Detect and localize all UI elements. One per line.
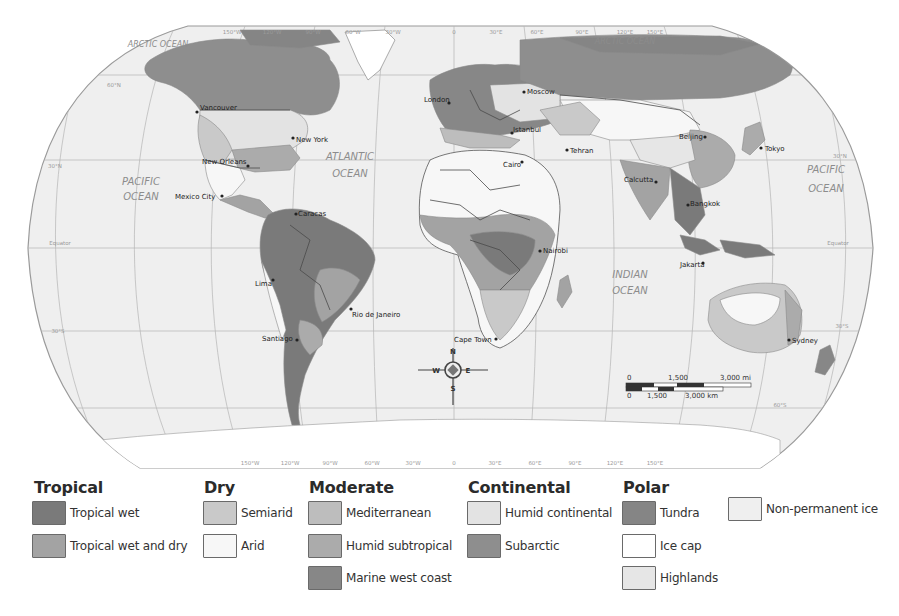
legend-label: Semiarid bbox=[241, 506, 293, 520]
legend-swatch bbox=[622, 566, 656, 590]
legend-label: Mediterranean bbox=[346, 506, 431, 520]
city-marker: Nairobi bbox=[538, 247, 568, 255]
legend-group-title: Polar bbox=[623, 478, 669, 497]
svg-text:1,500: 1,500 bbox=[668, 374, 688, 382]
legend-swatch bbox=[308, 501, 342, 525]
svg-text:150°E: 150°E bbox=[647, 460, 664, 466]
svg-text:Vancouver: Vancouver bbox=[200, 104, 237, 112]
city-marker: Jakarta bbox=[679, 261, 705, 269]
svg-text:Caracas: Caracas bbox=[298, 210, 326, 218]
svg-text:30°S: 30°S bbox=[51, 328, 65, 334]
svg-text:Bangkok: Bangkok bbox=[690, 200, 721, 208]
svg-text:30°S: 30°S bbox=[835, 323, 849, 329]
city-marker: Cape Town bbox=[454, 336, 498, 344]
svg-text:Nairobi: Nairobi bbox=[543, 247, 568, 255]
svg-text:OCEAN: OCEAN bbox=[808, 183, 844, 194]
svg-text:Equator: Equator bbox=[49, 240, 71, 247]
svg-text:Tokyo: Tokyo bbox=[764, 145, 785, 153]
legend-swatch bbox=[203, 534, 237, 558]
svg-text:New Orleans: New Orleans bbox=[202, 158, 247, 166]
legend-label: Tropical wet bbox=[70, 506, 139, 520]
legend-swatch bbox=[308, 566, 342, 590]
legend-item-semiarid: Semiarid bbox=[203, 500, 293, 526]
legend-item-humid-continental: Humid continental bbox=[467, 500, 612, 526]
svg-text:Istanbul: Istanbul bbox=[513, 126, 541, 134]
legend-label: Non-permanent ice bbox=[766, 502, 878, 516]
legend-item-tropical-wet: Tropical wet bbox=[32, 500, 139, 526]
svg-text:OCEAN: OCEAN bbox=[332, 168, 368, 179]
svg-text:0: 0 bbox=[627, 392, 631, 400]
svg-text:ATLANTIC: ATLANTIC bbox=[325, 151, 374, 162]
svg-text:0: 0 bbox=[452, 460, 456, 466]
svg-text:30°N: 30°N bbox=[48, 163, 62, 169]
svg-text:Mexico City: Mexico City bbox=[175, 193, 215, 201]
svg-text:Santiago: Santiago bbox=[262, 335, 293, 343]
legend-group-title: Moderate bbox=[309, 478, 394, 497]
legend-item-ice-cap: Ice cap bbox=[622, 533, 702, 559]
svg-text:60°E: 60°E bbox=[530, 29, 544, 35]
legend-group-title: Continental bbox=[468, 478, 571, 497]
legend-item-non-permanent-ice: Non-permanent ice bbox=[728, 496, 878, 522]
svg-text:Cape Town: Cape Town bbox=[454, 336, 492, 344]
svg-text:W: W bbox=[432, 367, 440, 375]
legend-swatch bbox=[308, 534, 342, 558]
legend-label: Marine west coast bbox=[346, 571, 452, 585]
svg-text:90°E: 90°E bbox=[568, 460, 582, 466]
legend-swatch bbox=[203, 501, 237, 525]
world-climate-map: ARCTIC OCEAN ARCTIC OCEAN PACIFIC OCEAN … bbox=[0, 0, 899, 470]
legend-label: Highlands bbox=[660, 571, 718, 585]
svg-text:30°E: 30°E bbox=[489, 29, 503, 35]
city-marker: Beijing bbox=[679, 133, 707, 141]
svg-text:30°W: 30°W bbox=[405, 460, 421, 466]
svg-text:Jakarta: Jakarta bbox=[679, 261, 705, 269]
legend-swatch bbox=[728, 497, 762, 521]
svg-text:90°W: 90°W bbox=[322, 460, 338, 466]
svg-text:0: 0 bbox=[452, 29, 456, 35]
svg-text:30°N: 30°N bbox=[833, 153, 847, 159]
city-marker: Cairo bbox=[503, 160, 524, 169]
svg-text:30°E: 30°E bbox=[488, 460, 502, 466]
svg-text:London: London bbox=[424, 96, 450, 104]
svg-text:Equator: Equator bbox=[827, 240, 849, 247]
climate-legend: Tropical Tropical wet Tropical wet and d… bbox=[0, 470, 899, 616]
svg-text:1,500: 1,500 bbox=[647, 392, 667, 400]
legend-label: Tropical wet and dry bbox=[70, 539, 187, 553]
legend-swatch bbox=[622, 501, 656, 525]
svg-text:OCEAN: OCEAN bbox=[612, 285, 648, 296]
city-marker: Caracas bbox=[294, 210, 326, 218]
city-marker: Moscow bbox=[522, 88, 555, 96]
legend-label: Humid subtropical bbox=[346, 539, 452, 553]
legend-item-arid: Arid bbox=[203, 533, 264, 559]
svg-text:ARCTIC OCEAN: ARCTIC OCEAN bbox=[127, 40, 188, 49]
svg-text:Sydney: Sydney bbox=[792, 337, 818, 345]
svg-text:Tehran: Tehran bbox=[569, 147, 593, 155]
svg-text:120°E: 120°E bbox=[607, 460, 624, 466]
legend-item-marine-west-coast: Marine west coast bbox=[308, 565, 452, 591]
city-marker: Calcutta bbox=[624, 176, 658, 184]
city-marker: Bangkok bbox=[686, 200, 721, 208]
legend-item-humid-subtropical: Humid subtropical bbox=[308, 533, 452, 559]
svg-text:60°N: 60°N bbox=[107, 82, 121, 88]
legend-group-title: Tropical bbox=[34, 478, 103, 497]
svg-text:120°W: 120°W bbox=[281, 460, 300, 466]
svg-text:150°W: 150°W bbox=[223, 29, 242, 35]
legend-label: Ice cap bbox=[660, 539, 702, 553]
svg-text:Lima: Lima bbox=[255, 280, 272, 288]
svg-text:N: N bbox=[450, 348, 456, 356]
city-marker: New York bbox=[291, 136, 329, 144]
svg-text:150°E: 150°E bbox=[647, 29, 664, 35]
svg-text:90°W: 90°W bbox=[305, 29, 321, 35]
legend-item-mediterranean: Mediterranean bbox=[308, 500, 431, 526]
legend-item-tropical-wet-and-dry: Tropical wet and dry bbox=[32, 533, 187, 559]
svg-text:Beijing: Beijing bbox=[679, 133, 703, 141]
city-marker: Istanbul bbox=[510, 126, 541, 135]
svg-text:30°W: 30°W bbox=[385, 29, 401, 35]
legend-swatch bbox=[467, 501, 501, 525]
legend-item-highlands: Highlands bbox=[622, 565, 718, 591]
svg-text:3,000 km: 3,000 km bbox=[685, 392, 718, 400]
svg-text:PACIFIC: PACIFIC bbox=[807, 164, 845, 175]
svg-text:PACIFIC: PACIFIC bbox=[122, 176, 160, 187]
legend-label: Humid continental bbox=[505, 506, 612, 520]
city-marker: London bbox=[424, 96, 451, 105]
city-marker: Lima bbox=[255, 278, 275, 288]
